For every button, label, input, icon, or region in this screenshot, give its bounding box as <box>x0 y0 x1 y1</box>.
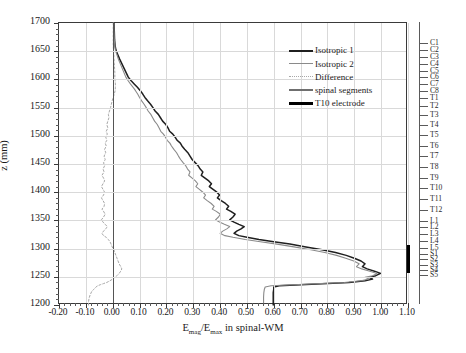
x-gridline <box>140 23 141 303</box>
y-axis-minor-tick <box>56 158 59 159</box>
y-axis-minor-tick <box>56 294 59 295</box>
y-axis-minor-tick <box>56 74 59 75</box>
x-axis-minor-tick <box>344 303 345 306</box>
y-axis-minor-tick <box>56 91 59 92</box>
x-axis-minor-tick <box>225 303 226 306</box>
x-axis-minor-tick <box>97 303 98 306</box>
legend-item: Difference <box>289 70 407 83</box>
y-axis-minor-tick <box>56 119 59 120</box>
spinal-segment-label-t11: T11 <box>430 195 442 203</box>
spinal-segment-tick <box>419 77 428 78</box>
spinal-segment-tick <box>419 50 428 51</box>
y-axis-minor-tick <box>56 130 59 131</box>
y-axis-tick <box>54 277 59 278</box>
y-axis-minor-tick <box>56 68 59 69</box>
spinal-segment-tick <box>419 270 428 271</box>
y-axis-minor-tick <box>56 215 59 216</box>
x-axis-minor-tick <box>349 303 350 306</box>
spinal-segment-tick <box>419 234 428 235</box>
spinal-segment-tick <box>419 254 428 255</box>
x-axis-minor-tick <box>392 303 393 306</box>
x-axis-minor-tick <box>118 303 119 306</box>
spinal-segment-tick <box>419 199 428 200</box>
y-axis-tick-label: 1650 <box>6 43 50 54</box>
spinal-segment-tick <box>419 146 428 147</box>
x-axis-minor-tick <box>156 303 157 306</box>
x-axis-minor-tick <box>102 303 103 306</box>
x-axis-minor-tick <box>268 303 269 306</box>
x-axis-minor-tick <box>317 303 318 306</box>
x-axis-minor-tick <box>215 303 216 306</box>
y-axis-minor-tick <box>56 102 59 103</box>
y-axis-minor-tick <box>56 175 59 176</box>
legend-swatch <box>289 50 313 52</box>
y-axis-minor-tick <box>56 226 59 227</box>
spinal-segment-tick <box>419 167 428 168</box>
spinal-segment-tick <box>419 275 428 276</box>
x-axis-minor-tick <box>290 303 291 306</box>
x-axis-minor-tick <box>360 303 361 306</box>
y-axis-tick-label: 1700 <box>6 15 50 26</box>
y-gridline <box>59 164 406 165</box>
spinal-segment-tick <box>419 106 428 107</box>
x-axis-tick-label: 1.10 <box>387 307 427 317</box>
legend-item: Isotropic 2 <box>289 57 407 70</box>
y-axis-minor-tick <box>56 153 59 154</box>
x-axis-minor-tick <box>311 303 312 306</box>
x-axis-minor-tick <box>285 303 286 306</box>
y-axis-minor-tick <box>56 170 59 171</box>
x-axis-minor-tick <box>333 303 334 306</box>
x-axis-minor-tick <box>242 303 243 306</box>
spinal-segment-tick <box>419 91 428 92</box>
x-gridline <box>247 23 248 303</box>
spinal-segment-label-t4: T4 <box>430 121 438 129</box>
x-axis-minor-tick <box>370 303 371 306</box>
spinal-segment-tick <box>419 259 428 260</box>
spinal-segment-tick <box>419 64 428 65</box>
y-axis-minor-tick <box>56 96 59 97</box>
spinal-segment-label-t12: T12 <box>430 206 442 214</box>
legend-swatch <box>289 63 313 64</box>
y-axis-tick <box>54 108 59 109</box>
y-axis-tick-label: 1400 <box>6 184 50 195</box>
spinal-segment-label-t8: T8 <box>430 163 438 171</box>
x-axis-minor-tick <box>129 303 130 306</box>
y-axis-minor-tick <box>56 243 59 244</box>
y-axis-tick-label: 1550 <box>6 100 50 111</box>
y-axis-tick-label: 1300 <box>6 241 50 252</box>
y-axis-minor-tick <box>56 62 59 63</box>
legend-label: T10 electrode <box>315 96 365 111</box>
y-axis-tick <box>54 192 59 193</box>
x-axis-minor-tick <box>387 303 388 306</box>
x-axis-minor-tick <box>64 303 65 306</box>
legend-item: T10 electrode <box>289 97 407 110</box>
y-axis-minor-tick <box>56 34 59 35</box>
x-axis-minor-tick <box>199 303 200 306</box>
y-axis-tick-label: 1500 <box>6 128 50 139</box>
x-gridline <box>220 23 221 303</box>
y-axis-tick <box>54 136 59 137</box>
y-gridline <box>59 277 406 278</box>
y-axis-minor-tick <box>56 237 59 238</box>
spinal-segment-tick <box>419 43 428 44</box>
spinal-segment-label-t10: T10 <box>430 184 442 192</box>
x-axis-minor-tick <box>397 303 398 306</box>
x-axis-minor-tick <box>376 303 377 306</box>
x-axis-minor-tick <box>231 303 232 306</box>
y-axis-minor-tick <box>56 29 59 30</box>
x-axis-minor-tick <box>279 303 280 306</box>
y-axis-minor-tick <box>56 299 59 300</box>
t10-electrode-marker <box>407 245 410 273</box>
y-axis-minor-tick <box>56 141 59 142</box>
x-axis-minor-tick <box>177 303 178 306</box>
y-axis-minor-tick <box>56 198 59 199</box>
y-gridline <box>59 136 406 137</box>
y-axis-tick-label: 1600 <box>6 71 50 82</box>
x-axis-minor-tick <box>123 303 124 306</box>
spinal-segment-tick <box>419 210 428 211</box>
spinal-segment-tick <box>419 248 428 249</box>
x-axis-minor-tick <box>365 303 366 306</box>
spinal-segment-label-t1: T1 <box>430 94 438 102</box>
chart-figure: z (mm) Emag/Emax in spinal-WM Isotropic … <box>0 0 466 353</box>
x-axis-minor-tick <box>172 303 173 306</box>
